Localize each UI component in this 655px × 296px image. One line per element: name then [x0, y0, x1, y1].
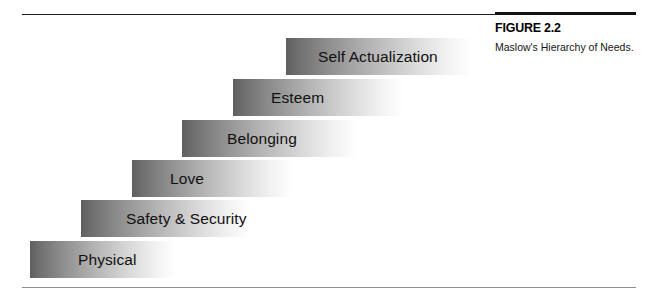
hierarchy-step-label: Safety & Security [126, 200, 247, 237]
hierarchy-step: Belonging [182, 120, 357, 157]
hierarchy-step: Safety & Security [81, 200, 251, 237]
hierarchy-step-label: Self Actualization [318, 38, 438, 75]
hierarchy-step: Esteem [233, 79, 403, 116]
figure-container: PhysicalSafety & SecurityLoveBelongingEs… [0, 0, 655, 296]
hierarchy-step-label: Love [170, 160, 204, 197]
hierarchy-step: Love [132, 160, 292, 197]
hierarchy-step: Physical [30, 241, 175, 278]
hierarchy-step-label: Belonging [227, 120, 297, 157]
hierarchy-step: Self Actualization [286, 38, 471, 75]
hierarchy-step-label: Physical [78, 241, 137, 278]
figure-number: FIGURE 2.2 [495, 20, 633, 35]
figure-caption-text: Maslow's Hierarchy of Needs. [495, 41, 645, 54]
hierarchy-step-label: Esteem [271, 79, 324, 116]
figure-caption-block: FIGURE 2.2 Maslow's Hierarchy of Needs. [495, 20, 645, 54]
bottom-divider [22, 287, 636, 288]
